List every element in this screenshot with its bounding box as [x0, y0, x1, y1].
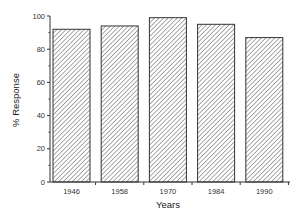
- y-tick-label: 80: [37, 45, 45, 54]
- y-tick-label: 20: [37, 144, 45, 153]
- bar-1984: [198, 24, 235, 182]
- x-tick-label: 1990: [256, 187, 273, 196]
- x-axis-label: Years: [156, 199, 180, 210]
- y-tick-label: 100: [32, 12, 45, 21]
- bars-group: [53, 18, 283, 182]
- y-tick-label: 40: [37, 111, 45, 120]
- bar-1946: [53, 29, 90, 182]
- y-ticks-group: 020406080100: [32, 12, 50, 187]
- bar-1970: [149, 18, 186, 182]
- x-tick-label: 1958: [111, 187, 128, 196]
- bar-1990: [246, 38, 283, 182]
- x-tick-label: 1970: [160, 187, 177, 196]
- x-ticks-group: 19461958197019841990: [63, 182, 288, 196]
- y-tick-label: 60: [37, 78, 45, 87]
- bar-chart: 020406080100 19461958197019841990 % Resp…: [0, 0, 300, 223]
- bar-1958: [101, 26, 138, 182]
- y-axis-label: % Response: [10, 73, 21, 127]
- x-tick-label: 1946: [63, 187, 80, 196]
- y-tick-label: 0: [41, 178, 45, 187]
- x-tick-label: 1984: [208, 187, 225, 196]
